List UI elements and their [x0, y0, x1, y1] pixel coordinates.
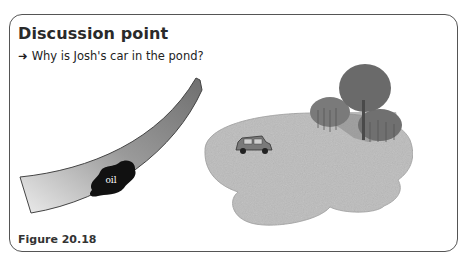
oil-label: oil — [105, 175, 116, 185]
figure-caption: Figure 20.18 — [18, 233, 97, 246]
scene-illustration: oil — [0, 0, 472, 260]
